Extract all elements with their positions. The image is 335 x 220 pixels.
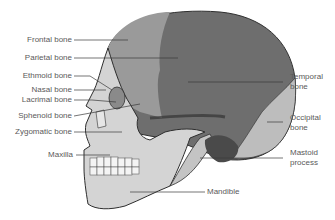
label-sphenoid-bone: Sphenoid bone [0,111,72,121]
label-zygomatic-bone: Zygomatic bone [0,127,72,137]
label-lacrimal-bone: Lacrimal bone [0,95,72,105]
label-temporal-bone: Temporal bone [290,72,323,92]
label-parietal-bone: Parietal bone [0,53,72,63]
label-ethmoid-bone: Ethmoid bone [0,71,72,81]
label-maxilla: Maxilla [0,150,73,160]
skull-diagram: Frontal bone Parietal bone Ethmoid bone … [0,0,335,220]
label-frontal-bone: Frontal bone [0,35,72,45]
label-nasal-bone: Nasal bone [0,85,72,95]
skull-illustration [0,0,335,220]
label-mastoid-process: Mastoid process [290,148,318,168]
teeth [90,157,139,175]
orbit [109,87,125,109]
label-mandible: Mandible [207,187,239,197]
label-occipital-bone: Occipital bone [290,113,321,133]
